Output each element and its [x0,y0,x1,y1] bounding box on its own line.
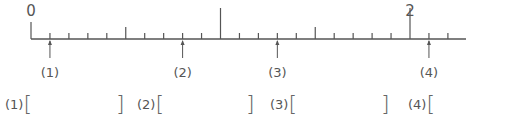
number-line [0,0,506,60]
answer-3: (3) [ ] [270,92,390,116]
answer-1: (1) [ ] [5,92,125,116]
answer-2: (2) [ ] [137,92,255,116]
axis-label-2: 2 [405,4,415,19]
arrow-up-icon [427,40,431,45]
open-bracket: [ [155,93,164,115]
close-bracket: ] [116,93,125,115]
close-bracket: ] [246,93,255,115]
close-bracket: ] [381,93,390,115]
arrow-up-icon [48,40,52,45]
number-line-worksheet: 012 (1)(2)(3)(4) (1) [ ] (2) [ ] (3) [ ]… [0,0,506,120]
answer-label: (2) [137,97,155,112]
open-bracket: [ [23,93,32,115]
open-bracket: [ [288,93,297,115]
arrow-label-2: (2) [173,66,191,80]
arrow-up-icon [275,40,279,45]
arrow-up-icon [181,40,185,45]
axis-label-0: 0 [26,4,36,19]
open-bracket: [ [426,93,435,115]
arrow-label-3: (3) [268,66,286,80]
answer-label: (1) [5,97,23,112]
answer-4: (4) [ [408,92,505,116]
arrow-label-1: (1) [41,66,59,80]
answer-label: (3) [270,97,288,112]
arrow-label-4: (4) [420,66,438,80]
answer-label: (4) [408,97,426,112]
